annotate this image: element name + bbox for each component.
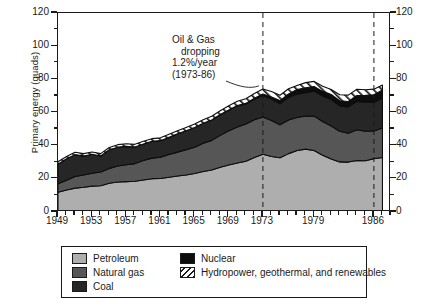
legend-item-nuclear[interactable]: Nuclear: [180, 253, 235, 264]
y-tick-label-right-40: 40: [396, 138, 425, 149]
y-tick-label-right-80: 80: [396, 72, 425, 83]
y-tick-left-10: [54, 194, 58, 195]
x-tick-1974: [270, 211, 271, 215]
energy-stacked-area-figure: Primary energy (quads) 00202040406060808…: [0, 0, 425, 308]
x-tick-1987: [381, 211, 382, 215]
y-tick-left-40: [51, 144, 57, 145]
oil-gas-decline-note: Oil & Gas dropping 1.2%/year (1973-86): [172, 34, 220, 80]
y-tick-label-left-20: 20: [19, 171, 49, 182]
legend-label: Nuclear: [201, 253, 235, 264]
y-tick-left-80: [51, 78, 57, 79]
x-tick-1988: [389, 211, 390, 215]
legend-label: Hydropower, geothermal, and renewables: [201, 267, 386, 278]
x-tick-1982: [338, 211, 339, 215]
annotation-line-1: Oil & Gas: [172, 34, 220, 46]
y-tick-label-right-100: 100: [396, 39, 425, 50]
legend-item-natural[interactable]: Natural gas: [72, 267, 144, 278]
y-tick-right-10: [390, 194, 394, 195]
x-tick-1952: [82, 211, 83, 215]
y-tick-left-120: [51, 11, 57, 12]
x-tick-1950: [65, 211, 66, 215]
x-tick-1960: [150, 211, 151, 215]
coal-swatch: [72, 281, 87, 292]
petroleum-swatch: [72, 253, 87, 264]
y-tick-label-left-120: 120: [19, 6, 49, 17]
x-tick-1958: [133, 211, 134, 215]
series-areas: [58, 81, 382, 211]
y-tick-left-70: [54, 94, 58, 95]
y-tick-label-right-120: 120: [396, 6, 425, 17]
x-tick-1963: [176, 211, 177, 215]
y-tick-left-20: [51, 177, 57, 178]
legend-item-coal[interactable]: Coal: [72, 281, 114, 292]
y-tick-left-60: [51, 111, 57, 112]
annotation-line-2: dropping: [172, 46, 220, 58]
x-tick-1967: [210, 211, 211, 215]
annotation-leader-line: [226, 81, 259, 87]
x-tick-1985: [364, 211, 365, 215]
x-tick-label-1979: 1979: [293, 215, 333, 226]
x-tick-1983: [347, 211, 348, 215]
x-tick-1981: [330, 211, 331, 215]
y-tick-left-110: [54, 28, 58, 29]
legend-item-hydropower[interactable]: Hydropower, geothermal, and renewables: [180, 267, 386, 278]
x-tick-1968: [219, 211, 220, 215]
x-tick-label-1973: 1973: [242, 215, 282, 226]
x-tick-1976: [287, 211, 288, 215]
x-tick-1966: [202, 211, 203, 215]
x-tick-1955: [108, 211, 109, 215]
x-tick-1971: [244, 211, 245, 215]
y-tick-label-left-100: 100: [19, 39, 49, 50]
nuclear-swatch: [180, 253, 195, 264]
x-tick-1970: [236, 211, 237, 215]
x-tick-1956: [116, 211, 117, 215]
x-tick-1962: [167, 211, 168, 215]
y-tick-right-110: [390, 28, 394, 29]
y-tick-left-100: [51, 45, 57, 46]
y-tick-label-left-0: 0: [19, 205, 49, 216]
y-tick-right-50: [390, 127, 394, 128]
y-tick-right-70: [390, 94, 394, 95]
x-tick-1964: [184, 211, 185, 215]
y-tick-label-right-20: 20: [396, 171, 425, 182]
x-tick-1980: [321, 211, 322, 215]
y-tick-left-50: [54, 127, 58, 128]
x-tick-1978: [304, 211, 305, 215]
x-tick-1977: [295, 211, 296, 215]
x-tick-label-1986: 1986: [353, 215, 393, 226]
x-tick-1954: [99, 211, 100, 215]
annotation-line-3: 1.2%/year: [172, 57, 220, 69]
y-tick-label-left-40: 40: [19, 138, 49, 149]
plot-area: [57, 12, 390, 211]
x-tick-1972: [253, 211, 254, 215]
x-tick-1959: [142, 211, 143, 215]
leader-line-1973: [226, 81, 259, 87]
y-tick-right-30: [390, 161, 394, 162]
x-tick-1951: [73, 211, 74, 215]
x-tick-1975: [278, 211, 279, 215]
stacked-area-svg: [58, 13, 390, 211]
natural-gas-swatch: [72, 267, 87, 278]
legend-item-petroleum[interactable]: Petroleum: [72, 253, 139, 264]
y-tick-left-90: [54, 61, 58, 62]
y-tick-right-90: [390, 61, 394, 62]
annotation-line-4: (1973-86): [172, 69, 220, 81]
x-tick-1984: [355, 211, 356, 215]
y-tick-label-right-60: 60: [396, 105, 425, 116]
y-tick-left-30: [54, 161, 58, 162]
chart-legend: PetroleumNatural gasCoalNuclearHydropowe…: [61, 246, 367, 298]
y-tick-label-left-80: 80: [19, 72, 49, 83]
legend-label: Petroleum: [93, 253, 139, 264]
hydropower-swatch: [180, 267, 195, 278]
y-tick-label-left-60: 60: [19, 105, 49, 116]
y-tick-label-right-0: 0: [396, 205, 425, 216]
legend-label: Coal: [93, 281, 114, 292]
legend-label: Natural gas: [93, 267, 144, 278]
